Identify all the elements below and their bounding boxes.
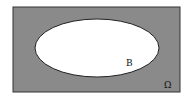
set-b-ellipse xyxy=(35,19,159,77)
venn-diagram: B Ω xyxy=(0,0,187,99)
universe-label: Ω xyxy=(164,80,171,90)
set-b-label: B xyxy=(126,58,133,68)
